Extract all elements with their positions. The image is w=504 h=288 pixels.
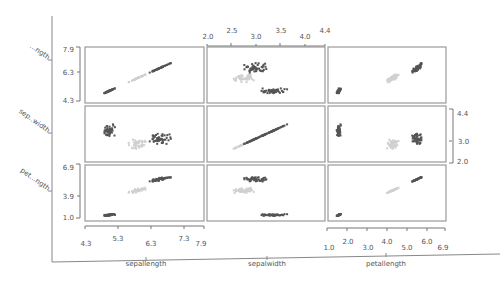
svg-text:7.3: 7.3 <box>178 235 189 243</box>
svg-text:4.0: 4.0 <box>381 238 392 246</box>
svg-text:4.3: 4.3 <box>80 240 91 248</box>
svg-text:6.0: 6.0 <box>421 238 432 246</box>
svg-text:5.0: 5.0 <box>401 244 412 252</box>
svg-text:6.3: 6.3 <box>63 69 74 77</box>
col-label-petallength: petallength <box>366 260 406 268</box>
svg-text:2.0: 2.0 <box>342 238 353 246</box>
y-axis-right-sepalwidth <box>449 109 453 163</box>
svg-text:2.5: 2.5 <box>226 27 237 35</box>
col-label-sepallength: sepallength <box>126 260 167 268</box>
svg-text:6.9: 6.9 <box>63 164 74 172</box>
scatter-points <box>104 62 423 217</box>
svg-text:3.9: 3.9 <box>63 193 74 201</box>
svg-text:4.4: 4.4 <box>457 110 469 118</box>
svg-text:4.4: 4.4 <box>319 27 331 35</box>
col-label-sepalwidth: sepalwidth <box>248 260 286 268</box>
y-axis-sepallength <box>76 47 80 101</box>
svg-text:2.0: 2.0 <box>202 33 213 41</box>
svg-text:7.9: 7.9 <box>63 46 74 54</box>
svg-text:1.0: 1.0 <box>63 214 74 222</box>
x-axis-top-sepalwidth <box>207 43 325 46</box>
svg-text:1.0: 1.0 <box>323 244 334 252</box>
svg-text:6.9: 6.9 <box>437 244 448 252</box>
row-label-sepallength: ...ngth <box>28 42 51 62</box>
svg-text:5.3: 5.3 <box>112 235 123 243</box>
row-label-sepalwidth: sep..width <box>17 107 51 134</box>
row-label-petallength: pet...ngth <box>19 166 52 192</box>
svg-text:6.3: 6.3 <box>145 240 156 248</box>
x-axis-sepallength <box>85 226 204 229</box>
svg-text:2.0: 2.0 <box>457 158 468 166</box>
svg-text:3.0: 3.0 <box>250 33 261 41</box>
svg-text:3.5: 3.5 <box>275 27 286 35</box>
y-axis-petallength <box>76 164 80 218</box>
svg-text:3.0: 3.0 <box>362 244 373 252</box>
svg-text:3.0: 3.0 <box>458 138 469 146</box>
svg-text:4.3: 4.3 <box>63 97 74 105</box>
svg-text:4.0: 4.0 <box>299 33 310 41</box>
x-axis-petallength <box>327 228 445 231</box>
scatterplot-matrix: ...ngth sep..width pet...ngth sepallengt… <box>0 0 504 288</box>
svg-text:7.9: 7.9 <box>195 240 206 248</box>
